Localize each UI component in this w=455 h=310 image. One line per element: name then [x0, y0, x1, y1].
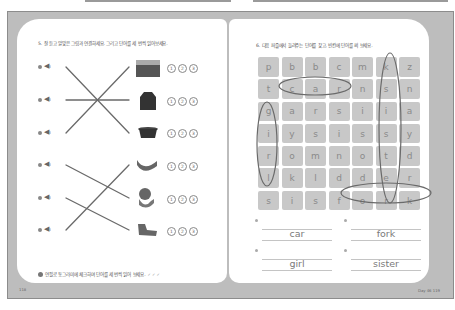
answer-bullet	[255, 249, 258, 252]
oval-sister	[379, 53, 401, 203]
answer-guide-line	[351, 270, 421, 271]
answer-bullet	[344, 219, 347, 222]
answer-sister[interactable]: sister	[351, 258, 421, 269]
answer-guide-line	[351, 240, 421, 241]
answer-guide-line	[262, 270, 332, 271]
answer-bullet	[344, 249, 347, 252]
oval-fork	[341, 183, 431, 203]
oval-car	[279, 77, 351, 95]
oval-girl	[257, 102, 277, 186]
answer-guide-line	[262, 240, 332, 241]
right-page-number: Day 46 119	[418, 288, 440, 293]
answer-fork[interactable]: fork	[351, 228, 421, 239]
answer-girl[interactable]: girl	[262, 258, 332, 269]
answer-car[interactable]: car	[262, 228, 332, 239]
answer-bullet	[255, 219, 258, 222]
